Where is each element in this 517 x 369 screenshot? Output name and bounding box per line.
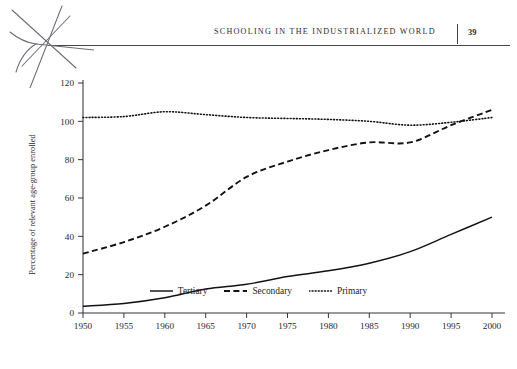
line-chart: 020406080100120 195019551960196519701975… [0, 55, 517, 369]
x-tick-label: 1980 [319, 321, 338, 331]
legend-item-secondary: Secondary [224, 286, 292, 296]
legend-item-primary: Primary [309, 286, 367, 296]
legend-swatch-dashed [224, 287, 247, 295]
y-tick-label: 0 [69, 308, 74, 318]
x-tick-label: 2000 [483, 321, 502, 331]
x-axis: 1950195519601965197019751980198519901995… [74, 313, 505, 331]
vertical-rule-icon [457, 24, 458, 44]
y-axis: 020406080100120 [60, 78, 83, 318]
x-tick-label: 1990 [401, 321, 420, 331]
y-tick-label: 20 [65, 270, 75, 280]
y-tick-label: 80 [65, 155, 75, 165]
legend-label: Primary [337, 286, 367, 296]
series-line-secondary [83, 110, 492, 254]
page-number: 39 [468, 28, 476, 37]
x-tick-label: 1950 [74, 321, 93, 331]
x-tick-label: 1970 [237, 321, 256, 331]
legend-swatch-solid [150, 287, 173, 295]
x-tick-label: 1975 [278, 321, 297, 331]
x-tick-label: 1960 [156, 321, 175, 331]
x-tick-label: 1995 [442, 321, 461, 331]
y-tick-label: 100 [60, 117, 74, 127]
x-tick-label: 1965 [197, 321, 216, 331]
legend-item-tertiary: Tertiary [150, 286, 208, 296]
running-head-title: Schooling in the Industrialized World [214, 27, 436, 36]
header-rule [48, 45, 510, 46]
x-tick-label: 1955 [115, 321, 134, 331]
chart-legend: TertiarySecondaryPrimary [0, 286, 517, 296]
legend-label: Secondary [252, 286, 292, 296]
legend-swatch-dotted [309, 287, 332, 295]
chart-canvas: 020406080100120 195019551960196519701975… [0, 55, 517, 369]
legend-label: Tertiary [178, 286, 208, 296]
page-header: Schooling in the Industrialized World 39 [0, 0, 517, 60]
y-tick-label: 120 [60, 78, 74, 88]
y-tick-label: 60 [65, 193, 75, 203]
y-axis-title: Percentage of relevant age-group enrolle… [28, 110, 37, 300]
x-tick-label: 1985 [360, 321, 379, 331]
y-tick-label: 40 [65, 232, 75, 242]
series-line-primary [83, 112, 492, 125]
chart-series [83, 110, 492, 306]
